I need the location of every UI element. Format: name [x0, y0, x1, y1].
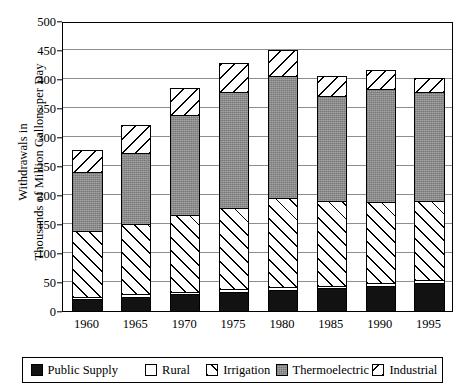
bar-segment-industrial[interactable]	[366, 70, 396, 89]
bar-segment-thermoelectric[interactable]	[414, 92, 444, 201]
bar-segment-irrigation[interactable]	[366, 202, 396, 283]
x-axis-tick-label-1960: 1960	[74, 317, 99, 332]
bar-segment-industrial[interactable]	[170, 88, 200, 115]
bar-segment-public-supply[interactable]	[170, 294, 200, 311]
x-axis-tick-label-1985: 1985	[318, 317, 343, 332]
y-axis-tick-label: 0	[50, 305, 56, 320]
bar-segment-irrigation[interactable]	[317, 201, 347, 286]
bar-segment-irrigation[interactable]	[121, 224, 151, 294]
x-axis-tick-label-1965: 1965	[123, 317, 148, 332]
y-axis-tick-label: 450	[37, 44, 56, 59]
legend-item-industrial[interactable]: Industrial	[372, 363, 437, 378]
y-axis-tick-label: 400	[37, 73, 56, 88]
bar-segment-thermoelectric[interactable]	[170, 115, 200, 215]
legend-swatch-icon	[206, 364, 218, 376]
bar-segment-public-supply[interactable]	[366, 286, 396, 311]
bar-1970[interactable]	[170, 88, 200, 311]
bar-segment-thermoelectric[interactable]	[317, 96, 347, 200]
bar-segment-industrial[interactable]	[268, 50, 298, 76]
y-axis-tick-label: 100	[37, 247, 56, 262]
bar-segment-thermoelectric[interactable]	[366, 89, 396, 202]
plot-area	[62, 22, 453, 312]
bar-1960[interactable]	[72, 150, 102, 311]
bar-segment-rural[interactable]	[414, 280, 444, 283]
legend-label: Rural	[162, 363, 190, 378]
bar-segment-rural[interactable]	[219, 289, 249, 292]
legend-item-public-supply[interactable]: Public Supply	[31, 363, 119, 378]
x-axis-tick-label-1975: 1975	[221, 317, 246, 332]
y-axis-tick-label: 350	[37, 102, 56, 117]
bar-1985[interactable]	[317, 76, 347, 311]
bar-segment-rural[interactable]	[366, 283, 396, 286]
bar-segment-thermoelectric[interactable]	[72, 172, 102, 231]
bar-group	[63, 23, 452, 311]
y-axis-tick-label: 300	[37, 131, 56, 146]
bar-segment-irrigation[interactable]	[170, 215, 200, 292]
x-axis-tick-label-1970: 1970	[172, 317, 197, 332]
bar-segment-public-supply[interactable]	[414, 283, 444, 311]
y-axis-tick-label: 500	[37, 15, 56, 30]
bar-segment-industrial[interactable]	[72, 150, 102, 172]
x-axis-tick-label-1980: 1980	[269, 317, 294, 332]
bar-segment-rural[interactable]	[170, 292, 200, 294]
bar-segment-rural[interactable]	[317, 286, 347, 289]
x-axis-tick-labels: 19601965197019751980198519901995	[62, 312, 453, 334]
legend-label: Irrigation	[223, 363, 270, 378]
x-axis-tick-label-1995: 1995	[416, 317, 441, 332]
bar-segment-public-supply[interactable]	[219, 292, 249, 311]
legend-item-irrigation[interactable]: Irrigation	[206, 363, 270, 378]
legend-item-thermoelectric[interactable]: Thermoelectric	[276, 363, 369, 378]
chart-legend: Public SupplyRuralIrrigationThermoelectr…	[22, 357, 443, 383]
y-axis-tick-label: 250	[37, 160, 56, 175]
bar-segment-rural[interactable]	[268, 287, 298, 290]
legend-swatch-icon	[31, 364, 43, 376]
legend-label: Thermoelectric	[293, 363, 369, 378]
bar-segment-irrigation[interactable]	[219, 208, 249, 289]
bar-segment-industrial[interactable]	[219, 63, 249, 91]
bar-1990[interactable]	[366, 70, 396, 311]
legend-swatch-icon	[372, 364, 384, 376]
bar-segment-thermoelectric[interactable]	[219, 92, 249, 208]
legend-label: Industrial	[389, 363, 437, 378]
bar-segment-public-supply[interactable]	[72, 299, 102, 311]
bar-segment-irrigation[interactable]	[268, 198, 298, 287]
bar-segment-industrial[interactable]	[414, 78, 444, 92]
legend-swatch-icon	[276, 364, 288, 376]
bar-1980[interactable]	[268, 50, 298, 311]
y-axis-tick-label: 200	[37, 189, 56, 204]
bar-segment-irrigation[interactable]	[72, 231, 102, 297]
bar-1965[interactable]	[121, 125, 151, 311]
stacked-bar-chart: Withdrawals in Thousands of Million Gall…	[0, 0, 465, 391]
bar-1975[interactable]	[219, 63, 249, 311]
bar-segment-thermoelectric[interactable]	[268, 76, 298, 198]
bar-segment-rural[interactable]	[72, 297, 102, 299]
legend-label: Public Supply	[48, 363, 119, 378]
y-axis-tick-label: 50	[44, 276, 57, 291]
bar-segment-thermoelectric[interactable]	[121, 153, 151, 224]
bar-1995[interactable]	[414, 78, 444, 311]
legend-item-rural[interactable]: Rural	[145, 363, 190, 378]
bar-segment-industrial[interactable]	[121, 125, 151, 152]
bar-segment-rural[interactable]	[121, 294, 151, 296]
legend-swatch-icon	[145, 364, 157, 376]
y-axis-tick-label: 150	[37, 218, 56, 233]
bar-segment-industrial[interactable]	[317, 76, 347, 96]
x-axis-tick-label-1990: 1990	[367, 317, 392, 332]
bar-segment-public-supply[interactable]	[317, 288, 347, 311]
y-axis-tick-labels: 050100150200250300350400450500	[0, 0, 62, 312]
bar-segment-public-supply[interactable]	[268, 290, 298, 311]
bar-segment-public-supply[interactable]	[121, 297, 151, 312]
bar-segment-irrigation[interactable]	[414, 201, 444, 280]
